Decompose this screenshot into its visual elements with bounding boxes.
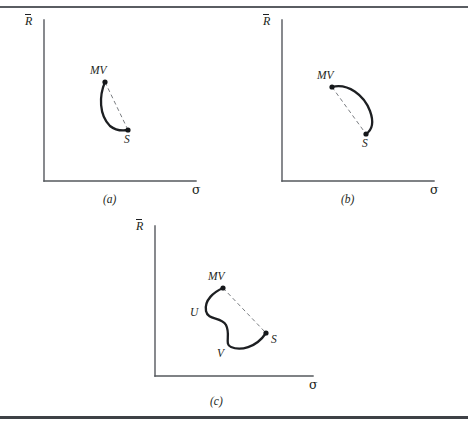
panel-a-label-s: S: [124, 134, 130, 146]
panel-c-caption: (c): [210, 396, 223, 408]
panel-b-y-axis-label: R: [263, 14, 270, 27]
panel-a-y-axis-label: R: [25, 14, 32, 27]
panel-c-y-axis-label-text: R: [136, 219, 143, 232]
panel-b-caption: (b): [341, 194, 354, 206]
panel-c-curve: [206, 288, 266, 349]
panel-b-plot: [258, 12, 458, 212]
panel-b-point-s: [363, 131, 368, 136]
panel-a-x-axis-label: σ: [192, 184, 201, 197]
top-rule-divider: [0, 6, 468, 8]
panel-a-label-mv: MV: [90, 65, 107, 77]
bottom-rule-divider: [0, 416, 468, 419]
panel-b: R σ MV S (b): [258, 12, 458, 212]
panel-c-point-mv: [220, 285, 225, 290]
panel-a-point-s: [125, 127, 130, 132]
panel-b-chord: [332, 87, 366, 134]
panel-c-point-s: [263, 330, 268, 335]
figure-container: R σ MV S (a) R σ MV S (b) R σ: [0, 0, 468, 425]
panel-c-label-mv: MV: [208, 271, 225, 283]
panel-b-point-mv: [329, 84, 334, 89]
panel-b-label-mv: MV: [317, 70, 334, 82]
panel-a-caption: (a): [103, 194, 116, 206]
panel-b-x-axis-label: σ: [430, 184, 439, 197]
panel-b-label-s: S: [362, 138, 368, 150]
panel-c-label-s: S: [271, 334, 277, 346]
panel-a-point-mv: [102, 79, 107, 84]
panel-c-x-axis-label: σ: [309, 379, 318, 392]
panel-a-y-axis-label-text: R: [25, 14, 32, 27]
panel-c-chord: [223, 288, 266, 333]
panel-c: R σ MV U V S (c): [128, 212, 343, 412]
panel-c-label-v: V: [217, 348, 224, 360]
panel-b-y-axis-label-text: R: [263, 14, 270, 27]
panel-a: R σ MV S (a): [20, 12, 230, 212]
panel-c-y-axis-label: R: [136, 219, 143, 232]
panel-a-curve: [101, 82, 128, 130]
panel-b-curve: [332, 86, 372, 134]
panel-c-label-u: U: [190, 307, 198, 319]
